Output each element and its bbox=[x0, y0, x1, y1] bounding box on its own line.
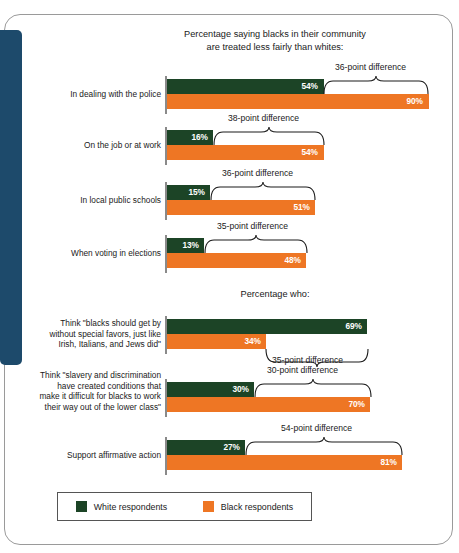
bar-value-white: 30% bbox=[0, 382, 249, 397]
difference-brace-icon bbox=[254, 378, 372, 397]
bar-value-white: 16% bbox=[0, 130, 208, 145]
bar-value-white: 15% bbox=[0, 185, 205, 200]
legend-item-black: Black respondents bbox=[203, 501, 293, 512]
legend-item-white: White respondents bbox=[76, 501, 167, 512]
difference-annotation: 35-point difference bbox=[217, 221, 288, 231]
difference-brace-icon bbox=[204, 234, 308, 253]
difference-brace-icon bbox=[210, 181, 316, 200]
difference-annotation: 38-point difference bbox=[228, 113, 299, 123]
difference-annotation: 36-point difference bbox=[222, 168, 293, 178]
difference-annotation: 54-point difference bbox=[281, 423, 352, 433]
bar-value-black: 81% bbox=[0, 455, 397, 470]
difference-brace-icon bbox=[323, 75, 429, 94]
legend-swatch-white-icon bbox=[76, 501, 87, 512]
legend-swatch-black-icon bbox=[203, 501, 214, 512]
legend-label-white: White respondents bbox=[94, 502, 167, 512]
bar-value-black: 90% bbox=[0, 94, 423, 109]
bar-value-black: 54% bbox=[0, 145, 318, 160]
section-title-2: Percentage who: bbox=[160, 288, 390, 301]
bar-value-black: 70% bbox=[0, 397, 365, 412]
bar-value-white: 69% bbox=[0, 319, 362, 334]
legend-label-black: Black respondents bbox=[221, 502, 293, 512]
bar-value-white: 13% bbox=[0, 238, 199, 253]
bar-value-black: 34% bbox=[0, 334, 261, 349]
bar-value-black: 51% bbox=[0, 200, 310, 215]
difference-brace-icon bbox=[213, 126, 325, 145]
difference-annotation: 36-point difference bbox=[335, 62, 406, 72]
difference-brace-icon bbox=[245, 436, 404, 455]
difference-annotation: 30-point difference bbox=[267, 365, 338, 375]
bar-value-white: 27% bbox=[0, 440, 240, 455]
bar-value-white: 54% bbox=[0, 79, 318, 94]
section-title-1: Percentage saying blacks in their commun… bbox=[160, 28, 390, 53]
bar-value-black: 48% bbox=[0, 253, 301, 268]
chart-legend: White respondents Black respondents bbox=[57, 492, 312, 521]
